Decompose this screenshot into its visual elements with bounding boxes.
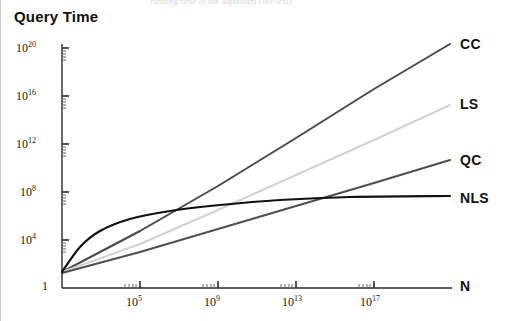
x-tick-label-1e17: 1017 (360, 294, 380, 310)
x-tick-label-1e9: 109 (204, 294, 220, 310)
series-label-nls: NLS (460, 190, 489, 206)
x-axis-major-ticks (140, 281, 374, 288)
y-tick-label-1e16: 1016 (16, 88, 36, 104)
x-tick-label-1e5: 105 (126, 294, 142, 310)
figure-canvas: running time of the algorithm (see text)… (0, 0, 509, 321)
y-tick-label-1e12: 1012 (16, 136, 36, 152)
x-tick-label-1e13: 1013 (282, 294, 302, 310)
y-tick-label-1e4: 104 (20, 232, 36, 248)
series-line-ls (62, 105, 450, 272)
series-line-cc (62, 44, 450, 272)
series-line-qc (62, 160, 450, 273)
chart-plot-area (0, 0, 509, 321)
y-tick-label-1e8: 108 (20, 184, 36, 200)
series-label-cc: CC (460, 36, 481, 52)
series-curves (62, 44, 450, 273)
x-axis-title: N (460, 278, 470, 294)
series-label-ls: LS (460, 96, 479, 112)
y-axis-major-ticks (62, 48, 69, 240)
series-line-nls (62, 196, 450, 272)
y-tick-label-1e20: 1020 (16, 40, 36, 56)
series-label-qc: QC (460, 152, 482, 168)
y-tick-label-1: 1 (42, 278, 48, 294)
